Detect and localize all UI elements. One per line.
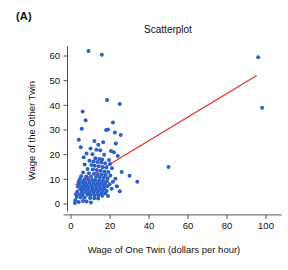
data-point bbox=[82, 155, 86, 159]
data-point bbox=[110, 166, 114, 170]
data-point bbox=[108, 162, 112, 166]
data-point bbox=[98, 148, 102, 152]
data-point bbox=[81, 170, 85, 174]
data-point bbox=[94, 148, 98, 152]
y-tick-label: 10 bbox=[49, 174, 60, 185]
y-axis-title: Wage of the Other Twin bbox=[26, 51, 37, 211]
data-point bbox=[87, 171, 91, 175]
data-point bbox=[85, 200, 89, 204]
data-point bbox=[99, 169, 103, 173]
data-point bbox=[89, 201, 93, 205]
data-point bbox=[106, 194, 110, 198]
data-point bbox=[86, 167, 90, 171]
data-point bbox=[118, 189, 122, 193]
y-tick-label: 40 bbox=[49, 100, 60, 111]
data-point bbox=[105, 98, 109, 102]
x-tick-label: 60 bbox=[183, 220, 194, 231]
data-point bbox=[135, 180, 139, 184]
data-point bbox=[128, 174, 132, 178]
y-tick-label: 0 bbox=[55, 198, 60, 209]
data-point bbox=[102, 153, 106, 157]
data-point bbox=[84, 118, 88, 122]
data-point bbox=[101, 165, 105, 169]
data-point bbox=[79, 145, 83, 149]
data-point bbox=[77, 200, 81, 204]
data-point bbox=[91, 167, 95, 171]
data-point bbox=[97, 164, 101, 168]
data-point bbox=[116, 154, 120, 158]
data-point bbox=[96, 143, 100, 147]
data-point bbox=[90, 152, 94, 156]
y-tick-label: 30 bbox=[49, 124, 60, 135]
data-point bbox=[104, 165, 108, 169]
data-point bbox=[103, 161, 107, 165]
data-point bbox=[112, 150, 116, 154]
data-point bbox=[95, 168, 99, 172]
y-tick-label: 20 bbox=[49, 149, 60, 160]
data-point bbox=[106, 128, 110, 132]
data-point bbox=[83, 163, 87, 167]
data-point bbox=[119, 133, 123, 137]
data-point bbox=[88, 196, 92, 200]
x-tick-label: 0 bbox=[68, 220, 73, 231]
data-point bbox=[120, 170, 124, 174]
data-point bbox=[92, 196, 96, 200]
y-tick-label: 50 bbox=[49, 75, 60, 86]
data-point bbox=[100, 53, 104, 57]
data-point bbox=[113, 130, 117, 134]
data-point bbox=[115, 184, 119, 188]
data-point bbox=[91, 160, 95, 164]
data-point bbox=[89, 163, 93, 167]
data-point bbox=[114, 142, 118, 146]
data-point bbox=[110, 187, 114, 191]
figure-panel: (A) Scatterplot 010203040506002040608010… bbox=[0, 0, 288, 270]
data-point bbox=[88, 159, 92, 163]
x-axis-title: Wage of One Twin (dollars per hour) bbox=[40, 244, 288, 255]
data-point bbox=[103, 169, 107, 173]
data-point bbox=[85, 151, 89, 155]
data-point bbox=[99, 161, 103, 165]
data-point bbox=[167, 165, 171, 169]
x-tick-label: 20 bbox=[105, 220, 116, 231]
data-point bbox=[77, 138, 81, 142]
data-point bbox=[111, 180, 115, 184]
scatterplot-canvas: 0102030405060020406080100 bbox=[0, 0, 288, 270]
data-point bbox=[79, 196, 83, 200]
data-point bbox=[92, 172, 96, 176]
data-point bbox=[96, 197, 100, 201]
data-point bbox=[93, 164, 97, 168]
tick-label-layer: 0102030405060020406080100 bbox=[49, 50, 274, 231]
x-tick-label: 100 bbox=[258, 220, 274, 231]
data-point bbox=[256, 55, 260, 59]
data-point bbox=[111, 121, 115, 125]
data-points-layer bbox=[73, 49, 264, 205]
data-point bbox=[107, 158, 111, 162]
data-point bbox=[73, 201, 77, 205]
data-point bbox=[100, 194, 104, 198]
data-point bbox=[108, 173, 112, 177]
data-point bbox=[95, 160, 99, 164]
y-tick-label: 60 bbox=[49, 50, 60, 61]
x-tick-label: 80 bbox=[222, 220, 233, 231]
data-point bbox=[81, 110, 85, 114]
data-point bbox=[80, 127, 84, 131]
data-point bbox=[260, 106, 264, 110]
data-point bbox=[118, 102, 122, 106]
data-point bbox=[81, 199, 85, 203]
data-point bbox=[92, 139, 96, 143]
data-point bbox=[106, 170, 110, 174]
x-tick-label: 40 bbox=[144, 220, 155, 231]
data-point bbox=[101, 140, 105, 144]
data-point bbox=[89, 147, 93, 151]
data-point bbox=[87, 49, 91, 53]
